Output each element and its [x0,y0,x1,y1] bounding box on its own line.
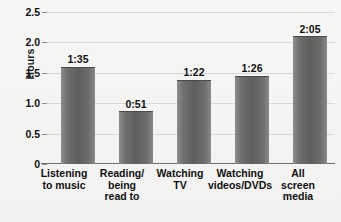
tick-mark [42,103,47,104]
y-tick-label: 0.5 [25,128,40,140]
bar-value-label: 2:05 [299,23,320,35]
tick-mark [42,164,47,165]
bar[interactable] [61,67,95,164]
x-label-line: media [268,191,328,203]
x-label-reading-being-read-to: Reading/ being read to [90,168,154,203]
bar[interactable] [177,80,211,164]
y-tick-label: 1.5 [25,67,40,79]
bar-group-listening-to-music: 1:35 [61,12,95,164]
y-tick-label: 1.0 [25,97,40,109]
tick-mark [42,73,47,74]
tick-mark [42,134,47,135]
tick-mark [42,42,47,43]
x-label-line: read to [90,191,154,203]
bar-group-reading-being-read-to: 0:51 [119,12,153,164]
x-label-line: Reading/ [90,168,154,180]
x-label-all-screen-media: All screen media [268,168,328,203]
bar-value-label: 1:26 [241,62,262,74]
bar[interactable] [119,111,153,164]
x-label-line: to music [32,180,96,192]
bar-chart: Hours 2.5 2.0 1.5 1.0 0.5 [0,0,341,222]
plot-area: 2.5 2.0 1.5 1.0 0.5 0 [47,12,335,164]
bar-group-all-screen-media: 2:05 [293,12,327,164]
x-label-line: videos/DVDs [203,180,277,192]
x-label-watching-videos-dvds: Watching videos/DVDs [203,168,277,191]
bar-value-label: 1:22 [183,66,204,78]
tick-mark [42,12,47,13]
bar-group-watching-tv: 1:22 [177,12,211,164]
x-label-line: All [268,168,328,180]
x-label-line: Watching [203,168,277,180]
bar[interactable] [235,76,269,164]
bar-group-watching-videos-dvds: 1:26 [235,12,269,164]
y-tick-label: 2.5 [25,6,40,18]
bar-value-label: 0:51 [125,98,146,110]
y-tick-label: 2.0 [25,36,40,48]
bar-value-label: 1:35 [67,53,88,65]
bar[interactable] [293,36,327,164]
x-label-line: Listening [32,168,96,180]
x-label-listening-to-music: Listening to music [32,168,96,191]
